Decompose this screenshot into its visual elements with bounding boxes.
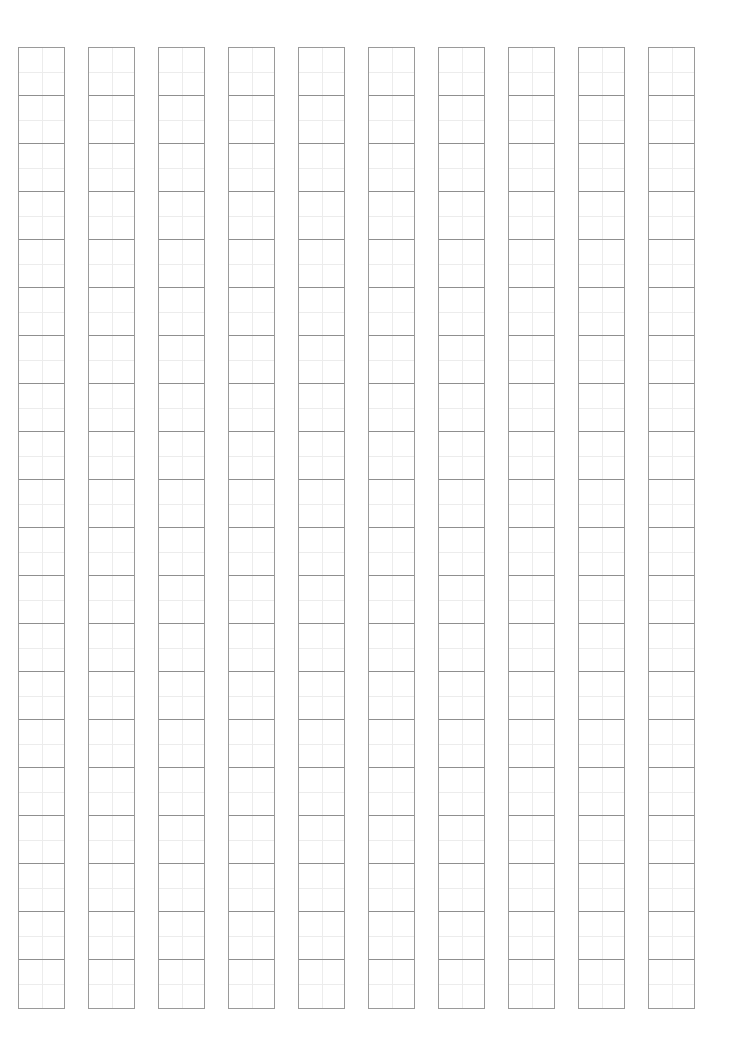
writing-cell (579, 576, 624, 624)
writing-cell (649, 816, 694, 864)
writing-cell (579, 336, 624, 384)
writing-cell (19, 768, 64, 816)
writing-cell (229, 768, 274, 816)
writing-cell (89, 48, 134, 96)
writing-cell (509, 816, 554, 864)
writing-cell (369, 768, 414, 816)
writing-cell (159, 576, 204, 624)
writing-cell (369, 384, 414, 432)
writing-cell (229, 384, 274, 432)
writing-cell (579, 480, 624, 528)
writing-cell (159, 672, 204, 720)
writing-cell (229, 288, 274, 336)
writing-cell (159, 912, 204, 960)
writing-cell (299, 240, 344, 288)
writing-cell (89, 624, 134, 672)
writing-cell (439, 528, 484, 576)
writing-cell (229, 432, 274, 480)
writing-cell (299, 48, 344, 96)
writing-cell (509, 192, 554, 240)
writing-cell (159, 960, 204, 1008)
writing-cell (649, 768, 694, 816)
writing-cell (299, 432, 344, 480)
writing-cell (509, 528, 554, 576)
writing-cell (299, 816, 344, 864)
writing-cell (509, 48, 554, 96)
writing-cell (439, 48, 484, 96)
grid-column (648, 47, 695, 1009)
writing-cell (159, 144, 204, 192)
writing-cell (19, 576, 64, 624)
writing-cell (229, 144, 274, 192)
writing-cell (509, 864, 554, 912)
writing-cell (439, 384, 484, 432)
writing-cell (89, 432, 134, 480)
writing-cell (229, 240, 274, 288)
grid-column (158, 47, 205, 1009)
writing-cell (509, 720, 554, 768)
writing-cell (439, 576, 484, 624)
writing-cell (509, 384, 554, 432)
writing-cell (439, 768, 484, 816)
writing-cell (229, 960, 274, 1008)
writing-cell (579, 672, 624, 720)
writing-cell (229, 192, 274, 240)
writing-cell (299, 288, 344, 336)
writing-cell (159, 864, 204, 912)
writing-cell (649, 672, 694, 720)
writing-cell (509, 912, 554, 960)
writing-cell (229, 672, 274, 720)
writing-cell (579, 96, 624, 144)
writing-cell (299, 672, 344, 720)
writing-cell (299, 576, 344, 624)
grid-column (18, 47, 65, 1009)
writing-cell (649, 96, 694, 144)
writing-cell (439, 672, 484, 720)
writing-cell (439, 432, 484, 480)
writing-cell (299, 720, 344, 768)
writing-cell (159, 768, 204, 816)
writing-cell (159, 288, 204, 336)
writing-cell (159, 384, 204, 432)
writing-cell (159, 192, 204, 240)
writing-cell (89, 240, 134, 288)
writing-cell (89, 576, 134, 624)
writing-cell (439, 336, 484, 384)
writing-cell (89, 384, 134, 432)
writing-cell (299, 864, 344, 912)
writing-cell (299, 480, 344, 528)
writing-cell (649, 384, 694, 432)
writing-cell (159, 48, 204, 96)
writing-cell (299, 96, 344, 144)
writing-cell (369, 96, 414, 144)
writing-cell (579, 432, 624, 480)
writing-cell (19, 288, 64, 336)
writing-cell (229, 480, 274, 528)
writing-cell (649, 192, 694, 240)
writing-cell (19, 720, 64, 768)
writing-cell (89, 720, 134, 768)
grid-column (438, 47, 485, 1009)
writing-cell (229, 96, 274, 144)
grid-column (88, 47, 135, 1009)
writing-cell (89, 768, 134, 816)
writing-cell (19, 480, 64, 528)
grid-column (578, 47, 625, 1009)
writing-cell (19, 672, 64, 720)
writing-cell (369, 288, 414, 336)
writing-cell (509, 240, 554, 288)
writing-cell (89, 144, 134, 192)
writing-cell (579, 240, 624, 288)
writing-cell (649, 624, 694, 672)
writing-cell (229, 912, 274, 960)
writing-cell (159, 240, 204, 288)
writing-cell (439, 144, 484, 192)
writing-cell (509, 432, 554, 480)
grid-column (228, 47, 275, 1009)
writing-cell (439, 864, 484, 912)
writing-cell (509, 624, 554, 672)
writing-cell (369, 576, 414, 624)
writing-cell (509, 288, 554, 336)
writing-cell (439, 96, 484, 144)
writing-cell (649, 144, 694, 192)
